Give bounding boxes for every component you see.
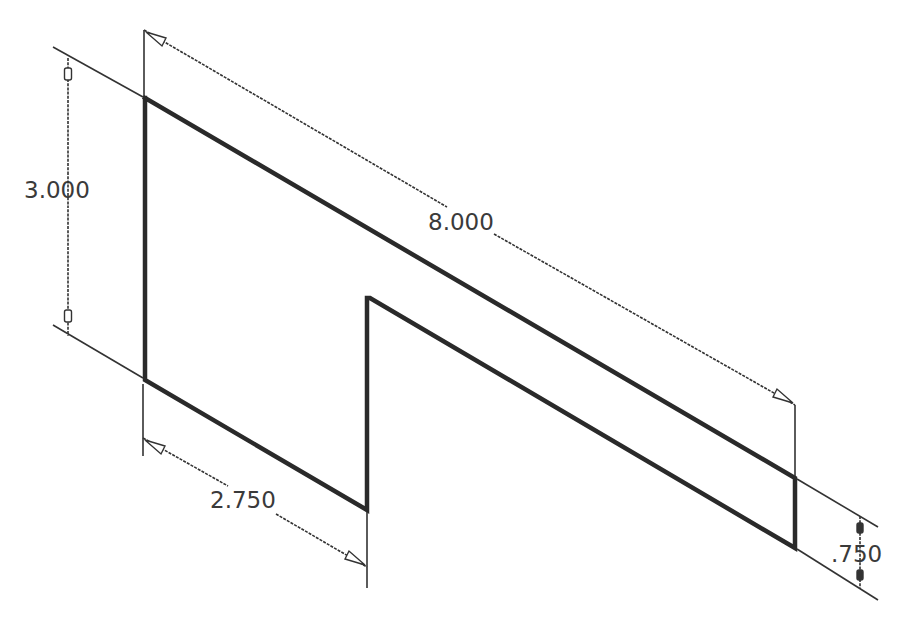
dimension-0750: .750: [797, 479, 882, 600]
arrowhead-top-icon: [65, 68, 72, 80]
arrowhead-bottom-icon: [857, 570, 863, 580]
profile-outline: [145, 98, 795, 548]
dimension-label-thickness: .750: [831, 541, 882, 567]
dimension-line-upper: [144, 30, 447, 207]
profile-edge: [145, 98, 795, 548]
arrowhead-right-icon: [773, 389, 793, 403]
dimension-label-length: 8.000: [428, 209, 494, 235]
extension-line-bottom: [53, 325, 143, 378]
dimension-label-height: 3.000: [24, 177, 90, 203]
extension-line-top: [797, 479, 878, 527]
dimension-2750: 2.750: [143, 384, 367, 588]
isometric-drawing: 3.000 8.000 2.750 .750: [0, 0, 919, 633]
arrowhead-left-icon: [145, 440, 165, 454]
arrowhead-right-icon: [345, 551, 365, 565]
dimension-line-lower: [494, 234, 795, 405]
dimension-8000: 8.000: [144, 30, 795, 476]
dimension-label-offset: 2.750: [210, 487, 276, 513]
arrowhead-bottom-icon: [65, 310, 72, 322]
arrowhead-left-icon: [146, 32, 166, 46]
arrowhead-top-icon: [857, 523, 863, 533]
dimension-3000: 3.000: [22, 47, 143, 378]
